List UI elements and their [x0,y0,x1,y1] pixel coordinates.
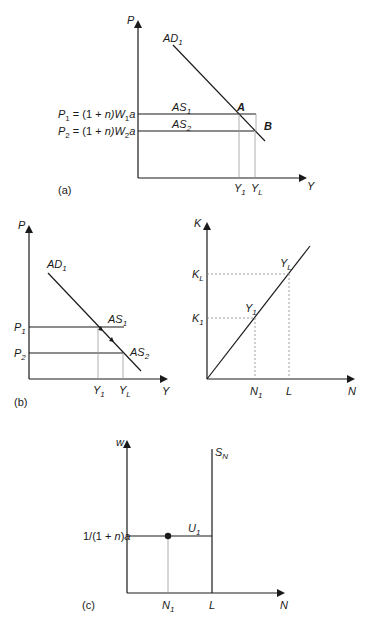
y1-point-label: Y1 [245,302,257,317]
panel-b: P Y AD1 AS1 AS2 P1 P2 Y1 YL (b) [14,219,170,408]
panel-a: P Y AD1 AS1 AS2 A B P1 = (1 + n)W1a P2 =… [58,14,315,197]
panel-c: w N SN U1 1/(1 + n)a N1 L (c) [82,436,288,614]
n1-tick: N1 [162,599,174,614]
point-a-label: A [236,101,245,113]
n-axis-label: N [348,385,356,397]
k-axis-label: K [194,217,202,229]
panel-b-tag: (b) [14,396,27,408]
ad1-label: AD1 [46,258,67,273]
wage-level-label: 1/(1 + n)a [83,530,130,542]
panel-kn: K N KL K1 YL Y1 N1 L [192,217,356,400]
y-axis-label: Y [307,180,315,192]
y1-tick: Y1 [93,384,105,399]
p2-tick: P2 [14,347,26,362]
y1-tick: Y1 [234,182,246,197]
ad1-label: AD1 [162,32,183,47]
production-line [207,246,310,379]
panel-c-tag: (c) [82,599,95,611]
l-tick: L [209,599,215,611]
point-b-label: B [264,120,272,132]
l-tick: L [286,385,292,397]
yl-tick: YL [119,384,131,399]
k1-tick: K1 [192,312,204,327]
y-axis-label: Y [162,385,170,397]
kl-tick: KL [192,268,204,283]
panel-a-tag: (a) [58,184,71,196]
p2-equation: P2 = (1 + n)W2a [58,125,135,140]
n1-tick: N1 [250,385,262,400]
diagram-canvas: P Y AD1 AS1 AS2 A B P1 = (1 + n)W1a P2 =… [0,0,367,624]
sn-label: SN [215,446,228,461]
p-axis-label: P [18,219,26,231]
p-axis-label: P [127,14,135,26]
p1-tick: P1 [14,321,26,336]
yl-tick: YL [251,182,263,197]
yl-point-label: YL [280,257,292,272]
n-axis-label: N [280,599,288,611]
u1-label: U1 [188,522,200,537]
as1-label: AS1 [107,313,127,328]
w-axis-label: w [116,436,125,448]
as2-label: AS2 [129,346,150,361]
p1-equation: P1 = (1 + n)W1a [58,108,135,123]
equilibrium-dot [165,533,171,539]
